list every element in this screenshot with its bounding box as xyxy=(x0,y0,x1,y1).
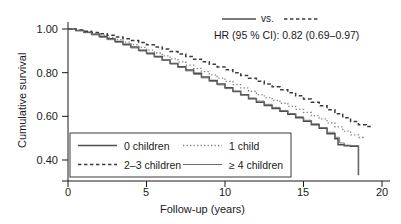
x-axis-label: Follow-up (years) xyxy=(160,203,245,215)
y-tick-label: 0.80 xyxy=(26,67,58,79)
x-tick-label: 20 xyxy=(370,186,394,198)
legend-label-1-child: 1 child xyxy=(229,140,259,152)
legend-label-2-3-children: 2–3 children xyxy=(124,159,181,171)
y-tick-label: 0.40 xyxy=(26,154,58,166)
x-tick-label: 15 xyxy=(291,186,315,198)
hazard-ratio-note: HR (95 % CI): 0.82 (0.69–0.97) xyxy=(214,29,359,41)
x-tick-label: 10 xyxy=(213,186,237,198)
y-axis-label: Cumulative survival xyxy=(16,53,28,148)
x-tick-label: 5 xyxy=(134,186,158,198)
y-tick-label: 1.00 xyxy=(26,23,58,35)
y-tick-label: 0.60 xyxy=(26,110,58,122)
comparison-note: vs. xyxy=(261,13,274,24)
survival-curve-1 xyxy=(68,29,363,138)
x-tick-label: 0 xyxy=(56,186,80,198)
legend-label-4plus-children: ≥ 4 children xyxy=(229,159,283,171)
y-axis-ticks xyxy=(62,29,68,160)
legend-label-0-children: 0 children xyxy=(124,140,170,152)
survival-chart-figure: 1.00 0.80 0.60 0.40 0 5 10 15 20 Cumulat… xyxy=(0,0,401,224)
